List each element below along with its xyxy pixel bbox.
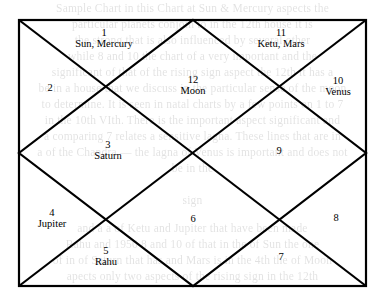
house-10-planets: Venus [325,86,351,97]
house-6[interactable]: 6 [190,213,195,224]
house-6-number: 6 [190,213,195,224]
house-11[interactable]: 11 Ketu, Mars [257,27,304,49]
house-4-number: 4 [38,207,67,218]
house-1-planets: Sun, Mercury [75,38,133,49]
house-5-planets: Rahu [95,256,117,267]
house-9[interactable]: 9 [276,145,281,156]
house-9-number: 9 [276,145,281,156]
birth-chart: 1 Sun, Mercury 2 3 Saturn 4 Jupiter 5 Ra… [0,0,385,302]
house-11-number: 11 [257,27,304,38]
house-7[interactable]: 7 [278,251,283,262]
house-10-number: 10 [325,75,351,86]
house-3-number: 3 [94,139,121,150]
house-1-number: 1 [75,27,133,38]
house-1[interactable]: 1 Sun, Mercury [75,27,133,49]
house-5[interactable]: 5 Rahu [95,245,117,267]
house-5-number: 5 [95,245,117,256]
house-12[interactable]: 12 Moon [180,74,205,96]
house-3[interactable]: 3 Saturn [94,139,121,161]
house-10[interactable]: 10 Venus [325,75,351,97]
house-12-planets: Moon [180,85,205,96]
house-7-number: 7 [278,251,283,262]
house-3-planets: Saturn [94,150,121,161]
house-4[interactable]: 4 Jupiter [38,207,67,229]
house-12-number: 12 [180,74,205,85]
house-2[interactable]: 2 [47,82,52,93]
chart-lines [0,0,385,302]
house-2-number: 2 [47,82,52,93]
house-8-number: 8 [333,212,338,223]
house-11-planets: Ketu, Mars [257,38,304,49]
house-8[interactable]: 8 [333,212,338,223]
house-4-planets: Jupiter [38,218,67,229]
